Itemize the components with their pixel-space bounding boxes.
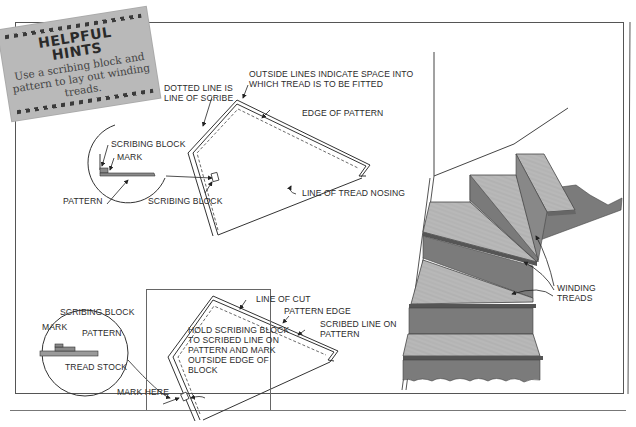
top-circle-label-scribing-block: SCRIBING BLOCK [111,139,185,149]
bottom-circle-label-scribing-block: SCRIBING BLOCK [60,307,134,317]
label-scribed-line: SCRIBED LINE ON PATTERN [320,319,410,339]
top-circle-label-pattern: PATTERN [63,196,103,206]
bottom-circle-label-tread-stock: TREAD STOCK [65,362,127,372]
label-edge-of-pattern: EDGE OF PATTERN [302,108,383,118]
label-instruction: HOLD SCRIBING BLOCK TO SCRIBED LINE ON P… [188,325,298,375]
label-winding-treads: WINDING TREADS [557,283,617,303]
label-pattern-edge: PATTERN EDGE [284,306,351,316]
label-outside-lines: OUTSIDE LINES INDICATE SPACE INTO WHICH … [249,69,419,89]
bottom-circle-label-mark: MARK [42,322,67,332]
bottom-circle-label-pattern: PATTERN [82,328,122,338]
top-circle-label-mark: MARK [117,152,142,162]
label-line-of-cut: LINE OF CUT [256,294,311,304]
top-detail-circle [88,125,212,204]
label-dotted-line: DOTTED LINE IS LINE OF SCRIBE [164,83,244,103]
label-line-of-tread-nosing: LINE OF TREAD NOSING [302,188,405,198]
label-scribing-block-top: SCRIBING BLOCK [148,196,222,206]
winding-stair-illustration [402,22,630,394]
label-mark-here: MARK HERE [117,387,169,397]
